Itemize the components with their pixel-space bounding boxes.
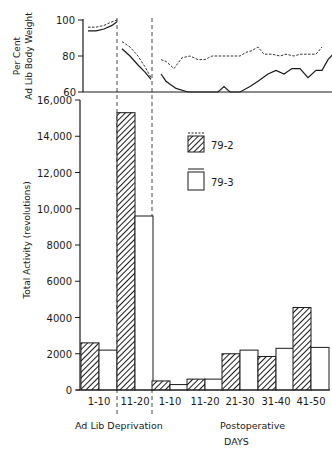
legend-swatch-open (188, 172, 204, 190)
bar-79-3-2 (170, 385, 188, 390)
bar-79-2-2 (152, 381, 170, 390)
bar-79-2-6 (293, 308, 311, 390)
weight-tick-label-100: 100 (56, 15, 75, 26)
weight-tick-label-80: 80 (62, 51, 75, 62)
activity-category-labels: 1-1011-201-1011-2021-3031-4041-50 (88, 396, 326, 407)
category-label: 1-10 (159, 396, 182, 407)
weight-chart: Per Cent Ad Lib Body Weight 100 80 60 (12, 12, 332, 100)
weight-line-79-3-ad-lib (88, 22, 117, 31)
legend: 79-2 79-3 (188, 133, 234, 190)
activity-ticks: 0200040006000800010,00012,00014,00016,00… (37, 95, 80, 396)
figure: Per Cent Ad Lib Body Weight 100 80 60 To… (0, 0, 332, 449)
bar-79-2-5 (258, 356, 276, 390)
x-axis-title: DAYS (224, 436, 249, 447)
activity-tick-label: 4000 (47, 313, 72, 324)
activity-chart: Total Activity (revolutions) 02000400060… (22, 95, 330, 447)
category-label: 11-20 (190, 396, 219, 407)
activity-tick-label: 10,000 (37, 204, 72, 215)
weight-line-79-2-deprivation (122, 42, 151, 78)
weight-lines (88, 20, 332, 92)
legend-label-79-3: 79-3 (211, 177, 234, 188)
bar-79-2-4 (222, 354, 240, 390)
legend-swatch-hatched (188, 136, 204, 152)
activity-tick-label: 0 (66, 385, 72, 396)
weight-line-79-2-postoperative (161, 47, 322, 69)
weight-line-79-3-deprivation (122, 49, 151, 80)
bar-79-2-0 (81, 343, 99, 390)
weight-ylabel-line1: Per Cent (12, 36, 22, 75)
category-label: 21-30 (225, 396, 254, 407)
activity-tick-label: 14,000 (37, 131, 72, 142)
activity-tick-label: 12,000 (37, 168, 72, 179)
category-label: 41-50 (296, 396, 325, 407)
group-label-postoperative: Postoperative (220, 420, 285, 431)
bar-79-2-1 (117, 113, 135, 390)
category-label: 31-40 (261, 396, 290, 407)
activity-ylabel: Total Activity (revolutions) (22, 181, 32, 299)
category-label: 11-20 (120, 396, 149, 407)
weight-ylabel-line2: Ad Lib Body Weight (24, 12, 34, 100)
activity-tick-label: 16,000 (37, 95, 72, 106)
weight-line-79-3-postoperative (161, 54, 332, 92)
bar-79-3-5 (276, 348, 294, 390)
bar-79-3-1 (135, 216, 153, 390)
activity-tick-label: 8000 (47, 240, 72, 251)
activity-tick-label: 2000 (47, 349, 72, 360)
bar-79-3-6 (311, 347, 329, 390)
bar-79-3-4 (240, 350, 258, 390)
bar-79-2-3 (187, 379, 205, 390)
activity-bars (81, 113, 329, 390)
weight-line-79-2-ad-lib (88, 20, 117, 27)
bar-79-3-3 (205, 379, 223, 390)
legend-label-79-2: 79-2 (211, 140, 234, 151)
activity-tick-label: 6000 (47, 276, 72, 287)
group-label-adlib-deprivation: Ad Lib Deprivation (75, 420, 163, 431)
category-label: 1-10 (88, 396, 111, 407)
bar-79-3-0 (99, 350, 117, 390)
